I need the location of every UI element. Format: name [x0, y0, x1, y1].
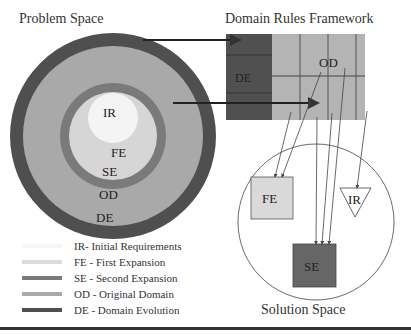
solution-fe-label: FE — [262, 191, 277, 206]
legend-item-od: OD - Original Domain — [22, 286, 182, 302]
legend-swatch-od — [22, 292, 62, 296]
legend-text-od: OD - Original Domain — [74, 288, 174, 300]
legend-text-ir: IR- Initial Requirements — [74, 240, 182, 252]
ring-label-se: SE — [102, 164, 117, 179]
legend-text-fe: FE - First Expansion — [74, 256, 165, 268]
solution-ir-label: IR — [348, 192, 361, 207]
bottom-divider — [0, 327, 411, 330]
ring-label-de: DE — [96, 210, 113, 225]
legend-swatch-de — [22, 308, 62, 312]
legend-text-de: DE - Domain Evolution — [74, 304, 179, 316]
legend-swatch-se — [22, 276, 62, 280]
framework-od-block — [272, 34, 365, 120]
legend-item-de: DE - Domain Evolution — [22, 302, 182, 318]
ring-label-od: OD — [99, 187, 118, 202]
legend-swatch-fe — [22, 260, 62, 264]
legend-text-se: SE - Second Expansion — [74, 272, 178, 284]
legend: IR- Initial Requirements FE - First Expa… — [22, 238, 182, 318]
legend-item-se: SE - Second Expansion — [22, 270, 182, 286]
legend-item-fe: FE - First Expansion — [22, 254, 182, 270]
framework-de-label: DE — [235, 71, 251, 85]
legend-item-ir: IR- Initial Requirements — [22, 238, 182, 254]
ring-label-fe: FE — [111, 145, 126, 160]
legend-swatch-ir — [22, 244, 62, 248]
ring-label-ir: IR — [103, 105, 116, 120]
framework-od-label: OD — [319, 55, 338, 70]
solution-se-label: SE — [304, 259, 319, 274]
problem-space-rings: IR FE SE OD DE — [10, 33, 216, 239]
